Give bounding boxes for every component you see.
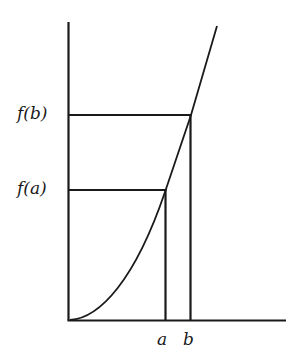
function-curve [70,26,217,320]
fb-label: f(b) [17,105,47,122]
b-label: b [183,331,194,348]
a-label: a [157,331,167,348]
fa-label: f(a) [17,180,47,197]
